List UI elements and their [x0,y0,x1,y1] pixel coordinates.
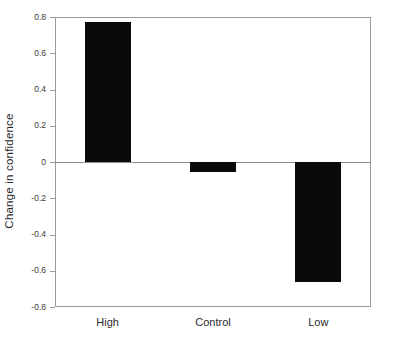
y-axis-tick [50,307,55,308]
x-axis-tick-label: High [63,316,153,329]
y-axis-tick-label: 0.4 [6,85,46,94]
y-axis-tick [50,17,55,18]
bar-low [295,162,341,282]
x-axis-tick-label: Control [168,316,258,329]
bar-chart-figure: Change in confidence 0.80.60.40.20-0.2-0… [0,0,394,345]
y-axis-tick-label: 0.8 [6,13,46,22]
y-axis-tick [50,53,55,54]
y-axis-tick [50,162,55,163]
y-axis-tick-label: -0.4 [6,230,46,239]
y-axis-tick-label: 0.2 [6,121,46,130]
bar-control [190,162,236,172]
y-axis-tick [50,126,55,127]
y-axis-tick [50,271,55,272]
y-axis-tick-label: -0.8 [6,303,46,312]
x-axis-tick-label: Low [273,316,363,329]
y-axis-tick [50,90,55,91]
y-axis-tick-label: -0.6 [6,266,46,275]
y-axis-tick-label: 0.6 [6,49,46,58]
y-axis-tick [50,198,55,199]
y-axis-tick [50,235,55,236]
y-axis-tick-label: -0.2 [6,194,46,203]
bar-high [85,22,131,162]
y-axis-tick-label: 0 [6,158,46,167]
